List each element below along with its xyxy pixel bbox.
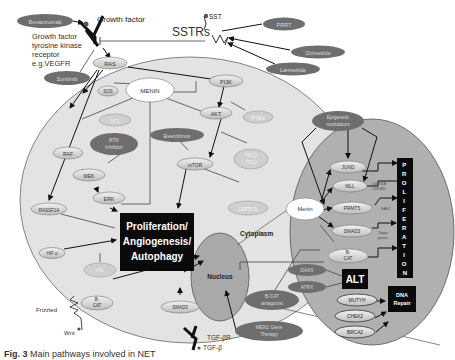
svg-text:DAXX: DAXX — [300, 268, 314, 273]
node-menin-nucleus: Menin — [286, 198, 324, 220]
drug-rtk-inhibitor: RTKInhibitor — [90, 133, 138, 155]
svg-text:Lanreotide: Lanreotide — [280, 67, 306, 73]
svg-text:Therapy: Therapy — [260, 332, 278, 337]
node-menin: MENIN — [126, 78, 174, 102]
node-mek: MEK — [73, 169, 105, 181]
svg-text:RASSF1A: RASSF1A — [39, 208, 60, 213]
svg-text:Everolimus: Everolimus — [163, 133, 190, 139]
svg-text:PRMT5: PRMT5 — [344, 206, 361, 211]
figure-caption: Fig. 3 Main pathways involved in NET — [4, 349, 156, 359]
net-pathway-diagram: Growth factor Growth factor tyrosine kin… — [0, 0, 455, 360]
svg-text:modulators: modulators — [326, 122, 350, 127]
gas1-label: GAS1 — [381, 207, 390, 211]
svg-text:Repair: Repair — [393, 300, 411, 306]
svg-text:VHL: VHL — [96, 268, 105, 273]
sstrs-label: SSTRs — [172, 25, 210, 39]
node-chek2: CHEK2 — [335, 310, 375, 322]
dna-repair-box: DNA Repair — [388, 286, 416, 312]
svg-text:SOS: SOS — [103, 89, 113, 94]
drug-men1-gene-therapy: MEN1 GeneTherapy — [235, 321, 303, 341]
svg-text:AKT: AKT — [211, 111, 222, 117]
node-smad3-nucleus: SMAD3 — [332, 225, 372, 237]
node-nf1: NF1 — [99, 114, 131, 126]
figure-number: Fig. 3 — [4, 349, 28, 359]
node-beta-catenin: B-CAT — [81, 296, 113, 310]
proliferation-angiogenesis-box: Proliferation/ Angiogenesis/ Autophagy — [120, 213, 194, 271]
gf-receptor-label-2: tyrosine kinase — [32, 41, 82, 50]
gf-receptor-label-3: receptor — [32, 50, 60, 59]
svg-text:B-: B- — [346, 250, 351, 255]
svg-text:Octreotide: Octreotide — [305, 50, 330, 56]
tgfbr-label: TGF-βR — [207, 334, 231, 342]
growth-factor-label: Growth factor — [97, 15, 145, 24]
node-brca2: BRCA2 — [335, 326, 375, 338]
svg-text:CHEK2: CHEK2 — [347, 314, 363, 319]
svg-text:PTEN: PTEN — [251, 115, 265, 121]
svg-text:DNA: DNA — [396, 292, 408, 298]
node-atrx: ATRX — [288, 281, 326, 293]
node-prmt5: PRMT5 — [332, 202, 372, 214]
svg-text:SMAD3: SMAD3 — [172, 305, 188, 310]
node-beta-catenin-nucleus: B-CAT — [328, 249, 368, 263]
drug-bcat-antagonist: B-CATantagonist — [245, 290, 299, 310]
node-ras: RAS — [93, 57, 127, 69]
svg-text:RAF: RAF — [63, 151, 73, 157]
svg-text:DEPDC5: DEPDC5 — [239, 207, 258, 212]
svg-text:ATRX: ATRX — [301, 285, 314, 290]
node-mtor: mTOR — [177, 158, 213, 170]
node-smad3: SMAD3 — [161, 301, 199, 313]
svg-text:MEN1 Gene: MEN1 Gene — [256, 325, 283, 330]
svg-text:CAT: CAT — [93, 303, 102, 308]
svg-text:ALT: ALT — [346, 274, 365, 285]
node-erk: ERK — [93, 192, 125, 204]
svg-text:Proliferation/: Proliferation/ — [126, 221, 188, 232]
frizzled-label: Frizzled — [36, 307, 57, 313]
drug-epigenetic-modulators: Epigeneticmodulators — [312, 111, 364, 131]
node-mutyh: MUTYH — [337, 294, 377, 306]
wnt-label: Wnt — [64, 330, 75, 336]
svg-text:CAT: CAT — [344, 256, 353, 261]
drug-lanreotide: Lanreotide — [266, 63, 320, 76]
target-genes-label-2: genes — [378, 236, 388, 240]
gf-receptor-label-4: e.g.VEGFR — [32, 59, 71, 68]
sstr-receptor-icon — [212, 35, 228, 45]
svg-text:HIF α: HIF α — [46, 251, 57, 256]
node-sos: SOS — [98, 86, 118, 96]
svg-text:TSC2: TSC2 — [245, 160, 257, 165]
node-depdc5: DEPDC5 — [228, 201, 268, 215]
svg-text:PI3K: PI3K — [220, 79, 232, 85]
svg-text:Autophagy: Autophagy — [131, 251, 184, 262]
svg-text:NF1: NF1 — [110, 118, 120, 124]
gf-receptor-label-1: Growth factor — [32, 32, 78, 41]
svg-text:Inhibitor: Inhibitor — [105, 144, 123, 150]
svg-text:antagonist: antagonist — [261, 301, 284, 306]
drug-prrt: PRRT — [263, 18, 305, 31]
node-jund: JUND — [330, 161, 366, 173]
svg-text:PRRT: PRRT — [277, 22, 293, 28]
svg-text:TSC1/: TSC1/ — [245, 153, 259, 158]
node-tsc: TSC1/TSC2 — [234, 149, 268, 169]
node-akt: AKT — [200, 107, 232, 119]
svg-text:Menin: Menin — [298, 206, 313, 212]
node-pten: PTEN — [243, 111, 273, 123]
proliferation-vertical-box: P R O L I F E R A T I O N — [397, 158, 413, 278]
node-daxx: DAXX — [288, 264, 326, 276]
svg-text:JUND: JUND — [342, 165, 355, 170]
cdkn2c-label: CDKN2C — [372, 187, 387, 191]
svg-text:RTK: RTK — [109, 137, 120, 143]
cdkn1b-label: CDKN1B — [372, 182, 387, 186]
svg-text:Sunitinib: Sunitinib — [56, 76, 77, 82]
svg-text:Bevacizumab: Bevacizumab — [28, 19, 61, 25]
svg-text:MUTYH: MUTYH — [348, 298, 366, 303]
nucleus-label: Nucleus — [207, 273, 233, 280]
svg-text:MEK: MEK — [84, 173, 96, 179]
drug-everolimus: Everolimus — [150, 128, 204, 142]
node-rassf1a: RASSF1A — [31, 203, 67, 215]
node-mll: MLL — [333, 180, 367, 192]
svg-text:Angiogenesis/: Angiogenesis/ — [123, 236, 192, 247]
node-hif-alpha: HIF α — [39, 248, 65, 259]
svg-text:ERK: ERK — [104, 196, 115, 202]
node-raf: RAF — [53, 147, 83, 159]
caption-text: Main pathways involved in NET — [28, 349, 156, 359]
drug-sunitinib: Sunitinib — [44, 71, 90, 85]
